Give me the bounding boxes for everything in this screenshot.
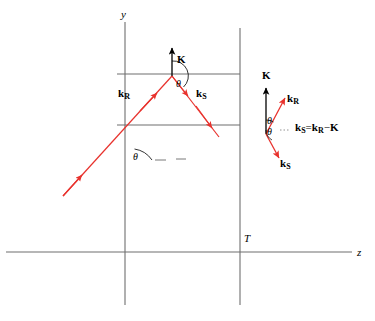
angle-arc-group [135, 61, 189, 160]
triangle-grating-vector-label: K [262, 70, 271, 81]
thickness-label: T [244, 233, 250, 244]
figure-canvas [0, 0, 375, 321]
vector-equation: kS=kR−K [295, 122, 338, 135]
axis-angle-label: θ [133, 152, 138, 162]
vertex-angle-label: θ [176, 79, 181, 89]
triangle-signal-vector-label: kS [280, 158, 291, 171]
triangle-reference-vector-subscript: R [293, 97, 299, 106]
y-axis-label: y [121, 9, 126, 20]
incident-vector-label: kR [118, 88, 130, 101]
triangle-signal-vector [266, 134, 279, 158]
equation-rhs-term: K [330, 121, 339, 133]
z-axis-label: z [357, 247, 361, 258]
grating-vector-label: K [177, 54, 186, 65]
incident-ray-arrow-upper [140, 93, 157, 111]
scattered-vector-subscript: S [202, 92, 206, 101]
triangle-signal-vector-subscript: S [286, 162, 290, 171]
triangle-angle-upper-label: θ [267, 116, 272, 126]
triangle-reference-vector-label: kR [287, 93, 299, 106]
triangle-angle-lower-label: θ [267, 127, 272, 137]
incident-ray-arrow-lower [63, 175, 82, 196]
scattering-geometry-figure: y z T K kR kS θ θ K kR kS θ θ kS=kR−K [0, 0, 375, 321]
incident-vector-subscript: R [124, 92, 130, 101]
scattered-vector-label: kS [196, 88, 207, 101]
